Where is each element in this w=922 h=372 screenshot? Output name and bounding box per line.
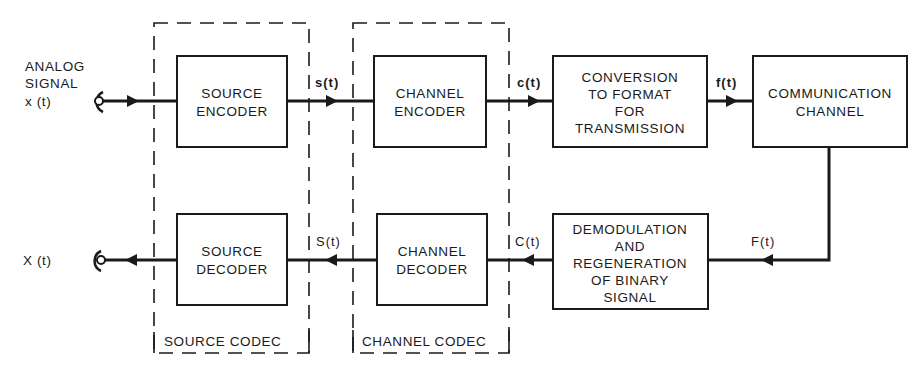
source-decoder-line1: SOURCE bbox=[201, 244, 262, 259]
conversion-line4: TRANSMISSION bbox=[575, 121, 685, 136]
source-codec-label: SOURCE CODEC bbox=[164, 334, 281, 349]
arrow-right-icon bbox=[726, 95, 738, 107]
conversion-line1: CONVERSION bbox=[582, 70, 679, 85]
communication-channel-line2: CHANNEL bbox=[796, 104, 865, 119]
input-terminal-icon bbox=[95, 92, 103, 112]
input-label-line2: SIGNAL bbox=[25, 76, 78, 91]
output-label: X (t) bbox=[23, 253, 52, 268]
signal-S-label: S(t) bbox=[316, 234, 341, 249]
demodulation-line2: AND bbox=[615, 239, 645, 254]
channel-encoder-block: CHANNEL ENCODER bbox=[374, 56, 486, 147]
signal-f-label: f(t) bbox=[716, 75, 737, 90]
source-encoder-line1: SOURCE bbox=[201, 86, 262, 101]
arrow-left-icon bbox=[325, 254, 337, 266]
channel-encoder-line1: CHANNEL bbox=[396, 86, 465, 101]
demodulation-line1: DEMODULATION bbox=[573, 222, 688, 237]
output-terminal-icon bbox=[95, 251, 105, 271]
block-diagram: SOURCE CODEC CHANNEL CODEC SOURCE ENCODE… bbox=[0, 0, 922, 372]
demodulation-line5: SIGNAL bbox=[603, 290, 656, 305]
arrow-left-icon bbox=[522, 254, 534, 266]
source-encoder-block: SOURCE ENCODER bbox=[177, 56, 287, 147]
arrow-left-icon bbox=[761, 254, 773, 266]
conversion-line3: FOR bbox=[615, 104, 645, 119]
input-label-line1: ANALOG bbox=[25, 59, 85, 74]
source-decoder-block: SOURCE DECODER bbox=[177, 214, 287, 305]
arrow-right-icon bbox=[528, 95, 540, 107]
arrow-right-icon bbox=[326, 95, 338, 107]
source-encoder-line2: ENCODER bbox=[196, 104, 268, 119]
demodulation-block: DEMODULATION AND REGENERATION OF BINARY … bbox=[553, 214, 708, 309]
conversion-block: CONVERSION TO FORMAT FOR TRANSMISSION bbox=[553, 56, 707, 147]
channel-decoder-block: CHANNEL DECODER bbox=[377, 214, 487, 305]
demodulation-line4: OF BINARY bbox=[591, 273, 669, 288]
arrow-left-icon bbox=[125, 254, 137, 266]
signal-c-label: c(t) bbox=[517, 75, 541, 90]
channel-decoder-line2: DECODER bbox=[396, 262, 468, 277]
channel-encoder-line2: ENCODER bbox=[394, 104, 466, 119]
signal-s-label: s(t) bbox=[315, 75, 339, 90]
communication-channel-block: COMMUNICATION CHANNEL bbox=[753, 56, 907, 147]
source-decoder-line2: DECODER bbox=[196, 262, 268, 277]
input-label-line3: x (t) bbox=[25, 94, 51, 109]
conversion-line2: TO FORMAT bbox=[588, 87, 672, 102]
arrow-right-icon bbox=[127, 95, 139, 107]
signal-C-label: C(t) bbox=[515, 234, 541, 249]
channel-decoder-line1: CHANNEL bbox=[398, 244, 467, 259]
channel-codec-label: CHANNEL CODEC bbox=[362, 334, 486, 349]
communication-channel-line1: COMMUNICATION bbox=[768, 86, 892, 101]
demodulation-line3: REGENERATION bbox=[573, 256, 687, 271]
signal-F-label: F(t) bbox=[751, 234, 775, 249]
